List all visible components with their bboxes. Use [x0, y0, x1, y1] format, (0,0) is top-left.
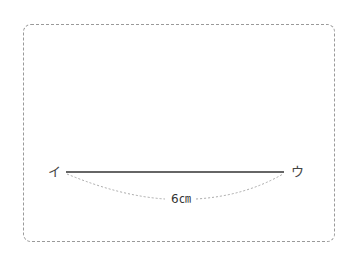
measure-arc-right [196, 174, 283, 199]
measure-arc-left [67, 174, 165, 199]
point-label-end: ウ [291, 165, 304, 178]
segment-figure [0, 0, 357, 256]
point-label-start: イ [48, 165, 61, 178]
length-label: 6㎝ [169, 193, 193, 205]
